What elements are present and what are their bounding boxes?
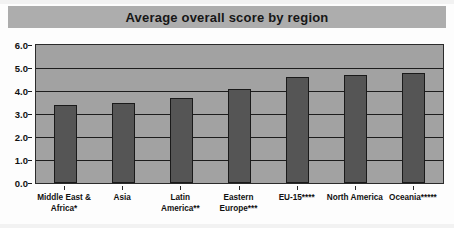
y-axis-tick-label: 2.0 bbox=[15, 132, 28, 143]
y-axis-tick-mark bbox=[28, 114, 32, 115]
x-axis-tick-label: LatinAmerica** bbox=[147, 193, 213, 214]
x-axis-label-line: EU-15**** bbox=[264, 193, 330, 204]
y-axis-tick-mark bbox=[28, 91, 32, 92]
x-axis-tick-label: Asia bbox=[89, 193, 155, 204]
y-axis-tick-label: 5.0 bbox=[15, 63, 28, 74]
title-banner: Average overall score by region bbox=[8, 6, 446, 28]
bar bbox=[286, 77, 309, 183]
y-axis-tick-mark bbox=[28, 137, 32, 138]
x-axis-tick-label: North America bbox=[322, 193, 388, 204]
x-axis-label-line: America** bbox=[147, 204, 213, 215]
x-axis-label-line: Eastern bbox=[206, 193, 272, 204]
x-axis-tick-label: EasternEurope*** bbox=[206, 193, 272, 214]
scan-edge-bottom bbox=[0, 224, 454, 228]
x-axis-tick-mark bbox=[355, 186, 356, 190]
x-axis-tick-mark bbox=[180, 186, 181, 190]
y-axis-tick-mark bbox=[28, 160, 32, 161]
bar bbox=[170, 98, 193, 183]
y-axis-tick-label: 6.0 bbox=[15, 40, 28, 51]
plot-area bbox=[35, 44, 444, 184]
bar bbox=[402, 73, 425, 183]
x-axis-tick-mark bbox=[64, 186, 65, 190]
y-axis-tick-label: 3.0 bbox=[15, 109, 28, 120]
bar bbox=[228, 89, 251, 183]
x-axis-tick-label: EU-15**** bbox=[264, 193, 330, 204]
y-axis-tick-label: 1.0 bbox=[15, 155, 28, 166]
x-axis-label-line: Asia bbox=[89, 193, 155, 204]
scan-edge-top bbox=[0, 0, 454, 4]
x-axis-label-line: Oceania***** bbox=[380, 193, 446, 204]
x-axis: Middle East &Africa*AsiaLatinAmerica**Ea… bbox=[35, 186, 444, 226]
x-axis-label-line: North America bbox=[322, 193, 388, 204]
bar bbox=[344, 75, 367, 183]
x-axis-label-line: Africa* bbox=[31, 204, 97, 215]
x-axis-tick-mark bbox=[413, 186, 414, 190]
bar bbox=[112, 103, 135, 184]
y-axis-tick-mark bbox=[28, 45, 32, 46]
y-axis: 0.01.02.03.04.05.06.0 bbox=[0, 44, 32, 184]
x-axis-tick-mark bbox=[122, 186, 123, 190]
x-axis-tick-label: Middle East &Africa* bbox=[31, 193, 97, 214]
x-axis-tick-mark bbox=[297, 186, 298, 190]
bar bbox=[54, 105, 77, 183]
x-axis-tick-mark bbox=[239, 186, 240, 190]
x-axis-label-line: Middle East & bbox=[31, 193, 97, 204]
x-axis-tick-label: Oceania***** bbox=[380, 193, 446, 204]
chart-figure: Average overall score by region 0.01.02.… bbox=[0, 0, 454, 228]
y-axis-tick-mark bbox=[28, 68, 32, 69]
y-axis-tick-label: 0.0 bbox=[15, 178, 28, 189]
chart-title: Average overall score by region bbox=[126, 10, 329, 25]
x-axis-label-line: Europe*** bbox=[206, 204, 272, 215]
x-axis-label-line: Latin bbox=[147, 193, 213, 204]
bars-group bbox=[36, 45, 443, 183]
y-axis-tick-label: 4.0 bbox=[15, 86, 28, 97]
y-axis-tick-mark bbox=[28, 183, 32, 184]
